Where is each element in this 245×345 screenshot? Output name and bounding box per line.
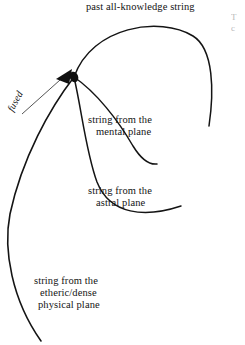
fused-leader-line	[22, 80, 60, 114]
figure-page: past all-knowledge string string from th…	[0, 0, 245, 345]
curve-past-all-knowledge-string	[74, 26, 212, 126]
label-mental-plane-string: string from themental plane	[88, 114, 152, 138]
label-physical-plane-line1: string from the	[34, 275, 98, 286]
label-etheric-physical-plane-string: string from theetheric/densephysical pla…	[34, 275, 100, 311]
label-physical-plane-line2: etheric/dense	[34, 287, 100, 299]
label-mental-plane-line2: mental plane	[88, 126, 152, 138]
label-mental-plane-line1: string from the	[88, 114, 152, 125]
label-astral-plane-string: string from theastral plane	[88, 185, 152, 209]
clipped-right-edge-text: T c	[231, 12, 245, 34]
label-astral-plane-line2: astral plane	[88, 197, 152, 209]
label-astral-plane-line1: string from the	[88, 185, 152, 196]
label-past-all-knowledge-string: past all-knowledge string	[86, 1, 195, 13]
label-physical-plane-line3: physical plane	[34, 299, 100, 311]
